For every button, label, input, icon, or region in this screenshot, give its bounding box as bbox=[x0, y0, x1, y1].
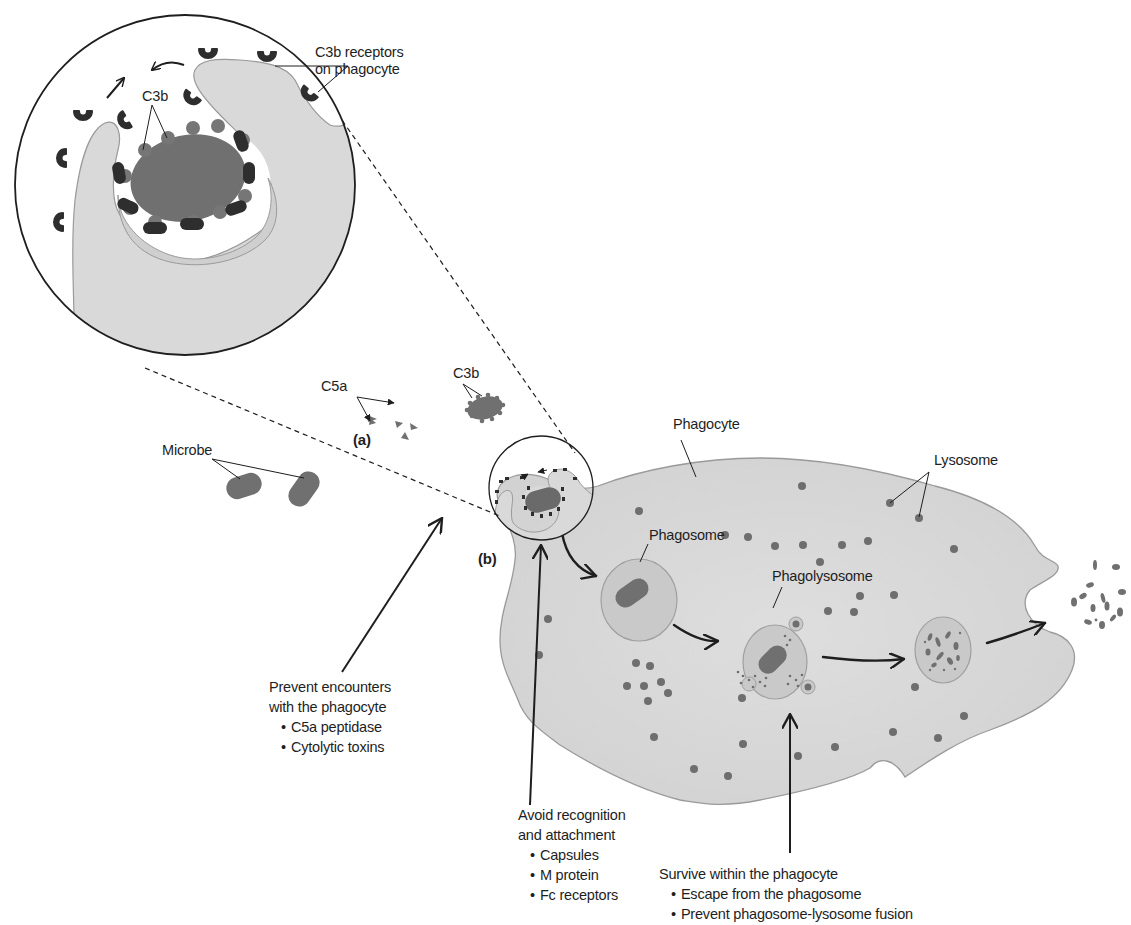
strategy-item: Cytolytic toxins bbox=[281, 737, 391, 757]
strategy-item: M protein bbox=[530, 865, 626, 885]
strategy-title-line1: Survive within the phagocyte bbox=[659, 864, 913, 884]
c5a-fragments bbox=[367, 415, 418, 440]
residual-body bbox=[915, 617, 971, 683]
label-c3b-receptors-line2: on phagocyte bbox=[315, 61, 403, 78]
label-lysosome: Lysosome bbox=[934, 452, 998, 469]
strategy-items: C5a peptidase Cytolytic toxins bbox=[269, 717, 391, 757]
panel-label-b: (b) bbox=[478, 550, 497, 567]
label-phagocyte: Phagocyte bbox=[673, 416, 740, 433]
strategy-item: Escape from the phagosome bbox=[671, 884, 913, 904]
strategy-title-line1: Prevent encounters bbox=[269, 677, 391, 697]
expelled-debris bbox=[1071, 560, 1126, 629]
label-c3b-receptors: C3b receptors on phagocyte bbox=[315, 44, 403, 78]
label-c3b-inset: C3b bbox=[142, 88, 168, 105]
c3b-coated-microbe bbox=[465, 393, 506, 424]
strategy-items: Escape from the phagosome Prevent phagos… bbox=[659, 884, 913, 924]
phagocytosis-evasion-diagram: C3b receptors on phagocyte C3b C5a C3b (… bbox=[0, 0, 1131, 925]
strategy-title-line2: with the phagocyte bbox=[269, 697, 391, 717]
label-microbe: Microbe bbox=[162, 442, 212, 459]
strategy-title-line2: and attachment bbox=[518, 825, 626, 845]
label-phagolysosome: Phagolysosome bbox=[772, 568, 873, 585]
strategy-items: Capsules M protein Fc receptors bbox=[518, 845, 626, 905]
label-c3b-receptors-line1: C3b receptors bbox=[315, 44, 403, 61]
strategy-item: Fc receptors bbox=[530, 885, 626, 905]
strategy-survive-within: Survive within the phagocyte Escape from… bbox=[659, 864, 913, 924]
strategy-avoid-recognition: Avoid recognition and attachment Capsule… bbox=[518, 805, 626, 905]
strategy-prevent-encounters: Prevent encounters with the phagocyte C5… bbox=[269, 677, 391, 757]
free-microbes bbox=[223, 467, 323, 511]
strategy-title-line1: Avoid recognition bbox=[518, 805, 626, 825]
strategy-item: Prevent phagosome-lysosome fusion bbox=[671, 904, 913, 924]
strategy-item: Capsules bbox=[530, 845, 626, 865]
c5a-leader bbox=[357, 397, 394, 421]
panel-label-a: (a) bbox=[353, 431, 371, 448]
label-phagosome: Phagosome bbox=[649, 527, 725, 544]
label-c3b: C3b bbox=[453, 365, 479, 382]
strategy-item: C5a peptidase bbox=[281, 717, 391, 737]
phagosome bbox=[601, 559, 677, 641]
label-c5a: C5a bbox=[321, 378, 347, 395]
